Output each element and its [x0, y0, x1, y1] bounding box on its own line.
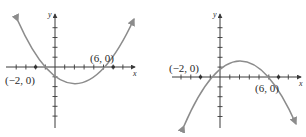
parabola-up [18, 19, 134, 84]
label-neg2-0: (−2, 0) [5, 74, 35, 87]
left-graph: y x (−2, 0) (6, 0) [5, 10, 137, 128]
x-axis-label: x [132, 69, 137, 78]
point-6-0 [277, 75, 281, 79]
y-axis-label: y [47, 10, 52, 19]
label-6-0: (6, 0) [90, 52, 114, 65]
parabola-down [184, 61, 296, 126]
point-neg2-0 [199, 75, 203, 79]
x-axis-label: x [298, 79, 303, 88]
y-axis-label: y [212, 10, 217, 19]
point-6-0 [111, 65, 115, 69]
point-neg2-0 [34, 65, 38, 69]
label-neg2-0: (−2, 0) [169, 62, 199, 75]
label-6-0: (6, 0) [255, 82, 279, 95]
right-graph: y x (−2, 0) (6, 0) [169, 10, 303, 128]
figure-canvas: y x (−2, 0) (6, 0) [0, 0, 306, 137]
